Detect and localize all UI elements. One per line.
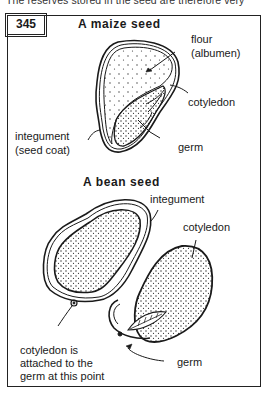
maize-seed-drawing: [88, 41, 188, 152]
label-flour: flour: [191, 33, 212, 46]
maize-title: A maize seed: [78, 17, 161, 31]
label-attach-line-1: cotyledon is: [20, 344, 78, 357]
label-maize-cotyledon: cotyledon: [188, 96, 235, 109]
label-maize-integument: integument: [15, 130, 69, 143]
label-bean-integument: integument: [150, 193, 204, 206]
label-seed-coat: (seed coat): [15, 144, 70, 157]
label-maize-germ: germ: [178, 141, 203, 154]
label-bean-cotyledon: cotyledon: [183, 221, 230, 234]
bean-title: A bean seed: [83, 175, 160, 189]
label-attach-line-3: germ at this point: [20, 370, 104, 383]
label-attach-line-2: attached to the: [20, 357, 93, 370]
label-bean-germ: germ: [177, 356, 202, 369]
label-albumen: (albumen): [191, 47, 241, 60]
